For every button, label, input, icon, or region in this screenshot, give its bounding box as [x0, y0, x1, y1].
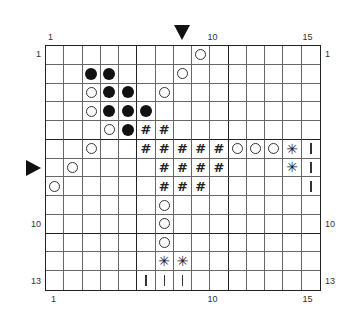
grid-cell	[229, 65, 247, 84]
grid-cell	[265, 234, 283, 253]
grid-cell	[210, 102, 228, 121]
open-circle-icon	[232, 143, 243, 154]
grid-cell	[64, 271, 82, 290]
grid-cell: #	[192, 159, 210, 178]
grid-cell	[283, 102, 301, 121]
grid-cell	[64, 102, 82, 121]
grid-cell	[302, 196, 320, 215]
grid-cell	[46, 159, 64, 178]
column-number-label-top: 15	[303, 32, 313, 42]
grid-cell	[119, 84, 137, 103]
grid-cell	[174, 196, 192, 215]
grid-cell	[229, 46, 247, 65]
grid-cell	[192, 196, 210, 215]
filled-circle-icon	[103, 68, 115, 80]
grid-cell	[137, 102, 155, 121]
grid-cell: #	[210, 159, 228, 178]
grid-cell	[119, 252, 137, 271]
filled-circle-icon	[103, 86, 115, 98]
grid-cell	[119, 65, 137, 84]
grid-cell	[265, 84, 283, 103]
open-circle-icon	[159, 237, 170, 248]
hash-symbol-icon: #	[159, 123, 170, 136]
grid-cell	[101, 140, 119, 159]
vertical-bar-icon	[310, 181, 311, 192]
column-number-label-bottom: 15	[303, 294, 313, 304]
grid-cell	[156, 65, 174, 84]
grid-cell	[101, 234, 119, 253]
grid-cell	[83, 215, 101, 234]
open-circle-icon	[177, 68, 188, 79]
grid-cell	[210, 84, 228, 103]
grid-cell	[229, 196, 247, 215]
grid-cell	[302, 84, 320, 103]
grid-cell	[101, 121, 119, 140]
row-marker-arrow-icon	[26, 160, 41, 176]
grid-cell: #	[192, 177, 210, 196]
grid-cell	[101, 271, 119, 290]
grid-cell	[137, 196, 155, 215]
grid-cell	[101, 215, 119, 234]
grid-cell	[283, 271, 301, 290]
grid-cell: #	[156, 140, 174, 159]
column-number-label-bottom: 1	[51, 294, 56, 304]
grid-cell	[137, 159, 155, 178]
hash-symbol-icon: #	[214, 161, 225, 174]
grid-cell	[247, 84, 265, 103]
grid-cell	[210, 252, 228, 271]
grid-cell	[64, 65, 82, 84]
grid-cell	[46, 140, 64, 159]
grid-cell	[101, 102, 119, 121]
grid-cell	[247, 121, 265, 140]
grid-cell: ✳	[283, 159, 301, 178]
grid-cell	[137, 84, 155, 103]
grid-cell	[83, 140, 101, 159]
grid-cell	[83, 177, 101, 196]
grid-cell	[229, 234, 247, 253]
grid-cell	[229, 84, 247, 103]
open-circle-icon	[159, 87, 170, 98]
vertical-bar-icon	[182, 275, 183, 286]
open-circle-icon	[195, 49, 206, 60]
grid-cell	[119, 46, 137, 65]
grid-cell	[302, 46, 320, 65]
grid-cell	[265, 215, 283, 234]
open-circle-icon	[86, 87, 97, 98]
grid-cell	[229, 159, 247, 178]
grid-cell	[210, 271, 228, 290]
grid-cell	[119, 159, 137, 178]
row-number-label-right: 10	[325, 219, 335, 229]
grid-cell	[83, 196, 101, 215]
grid-cell	[265, 65, 283, 84]
grid-cell	[83, 159, 101, 178]
grid-cell	[101, 65, 119, 84]
grid-cell	[156, 196, 174, 215]
filled-circle-icon	[103, 105, 115, 117]
grid-cell	[174, 84, 192, 103]
grid-cell	[265, 121, 283, 140]
grid-cell	[174, 65, 192, 84]
filled-circle-icon	[122, 105, 134, 117]
grid-cell	[210, 121, 228, 140]
filled-circle-icon	[122, 124, 134, 136]
grid-cell	[247, 140, 265, 159]
grid-cell	[283, 196, 301, 215]
vertical-bar-icon	[164, 275, 165, 286]
row-number-label-left: 1	[36, 49, 41, 59]
grid-cell	[46, 252, 64, 271]
grid-cell	[192, 65, 210, 84]
grid-cell	[283, 234, 301, 253]
grid-cell	[265, 159, 283, 178]
row-number-label-left: 10	[31, 219, 41, 229]
row-number-label-right: 1	[325, 49, 330, 59]
grid-cell	[119, 121, 137, 140]
grid-cell	[119, 234, 137, 253]
grid-cell: #	[174, 140, 192, 159]
asterisk-icon: ✳	[177, 254, 189, 268]
grid-cell	[283, 46, 301, 65]
grid-cell	[101, 177, 119, 196]
grid-cell	[283, 252, 301, 271]
row-number-label-right: 13	[325, 276, 335, 286]
grid-cell	[156, 215, 174, 234]
grid-cell	[229, 121, 247, 140]
